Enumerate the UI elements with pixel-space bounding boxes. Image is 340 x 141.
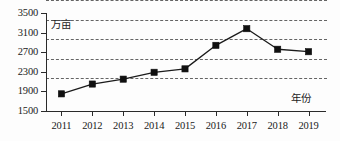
data-point-marker xyxy=(89,81,95,87)
data-point-marker xyxy=(182,66,188,72)
series-layer xyxy=(0,0,340,141)
line-chart: 万亩 年份 150019002300270031003500 201120122… xyxy=(0,0,340,141)
data-point-marker xyxy=(275,46,281,52)
data-point-marker xyxy=(58,91,64,97)
data-point-marker xyxy=(151,69,157,75)
data-point-marker xyxy=(244,26,250,32)
data-point-marker xyxy=(305,49,311,55)
data-point-marker xyxy=(120,76,126,82)
series-markers xyxy=(58,26,311,97)
series-line xyxy=(61,29,308,94)
data-point-marker xyxy=(213,42,219,48)
